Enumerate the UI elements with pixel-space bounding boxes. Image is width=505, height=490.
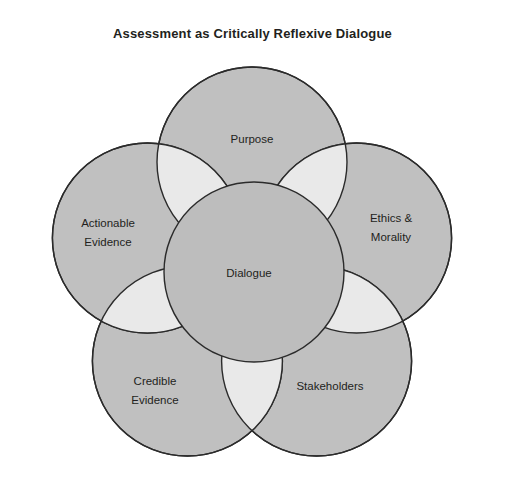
- petal-label-actionable-evidence-line2: Evidence: [84, 236, 131, 248]
- petal-label-ethics-morality-line1: Ethics &: [370, 212, 413, 224]
- venn-diagram: Purpose Ethics & Morality Stakeholders C…: [0, 0, 505, 490]
- petal-label-ethics-morality-line2: Morality: [371, 231, 412, 243]
- diagram-figure: Assessment as Critically Reflexive Dialo…: [0, 0, 505, 490]
- petal-label-credible-evidence-line2: Evidence: [131, 394, 178, 406]
- center-label-dialogue: Dialogue: [226, 267, 271, 279]
- petal-label-actionable-evidence-line1: Actionable: [81, 217, 135, 229]
- petal-label-purpose: Purpose: [231, 133, 274, 145]
- petal-label-stakeholders: Stakeholders: [296, 380, 363, 392]
- petal-label-credible-evidence-line1: Credible: [134, 375, 177, 387]
